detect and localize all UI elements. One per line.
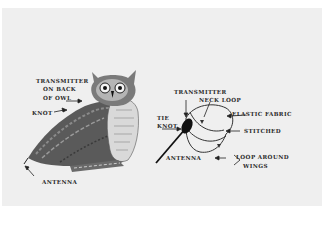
label-tie-knot: TIE — [157, 115, 169, 122]
label-elastic-fabric: ELASTIC FABRIC — [232, 111, 292, 118]
label-neck-loop: NECK LOOP — [199, 97, 241, 104]
label-knot: KNOT — [32, 110, 53, 117]
label-antenna-owl: ANTENNA — [42, 179, 77, 186]
label-loop-around-wings: LOOP AROUND — [236, 154, 289, 161]
label-tie-knot-2: KNOT — [157, 123, 178, 130]
label-stitched: STITCHED — [244, 128, 281, 135]
label-transmitter-on-back-2: ON BACK — [43, 86, 76, 93]
label-transmitter: TRANSMITTER — [174, 89, 227, 96]
label-transmitter-on-back: TRANSMITTER — [36, 78, 89, 85]
owl-illustration — [24, 70, 139, 172]
label-transmitter-on-back-3: OF OWL — [43, 95, 71, 102]
label-antenna-harness: ANTENNA — [166, 155, 201, 162]
label-loop-around-wings-2: WINGS — [243, 163, 268, 170]
